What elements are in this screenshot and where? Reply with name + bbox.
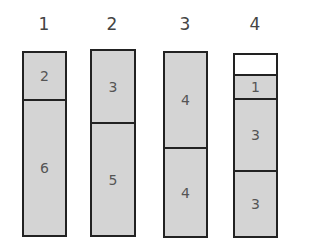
bin-label: 4 (233, 14, 277, 34)
item-block: 6 (24, 99, 65, 235)
bin-4: 1 3 3 (233, 53, 278, 238)
item-block: 3 (235, 98, 276, 170)
item-block: 2 (24, 53, 65, 99)
item-block: 5 (92, 122, 134, 235)
bin-1: 2 6 (22, 51, 67, 237)
item-block: 1 (235, 74, 276, 98)
bin-3: 4 4 (163, 51, 208, 238)
bin-label: 2 (90, 14, 134, 34)
bin-label: 1 (22, 14, 66, 34)
item-block: 4 (165, 147, 206, 236)
bin-label: 3 (163, 14, 207, 34)
item-block: 4 (165, 53, 206, 147)
empty-space (235, 55, 276, 74)
item-block: 3 (92, 51, 134, 122)
item-block: 3 (235, 170, 276, 236)
bin-2: 3 5 (90, 49, 136, 237)
